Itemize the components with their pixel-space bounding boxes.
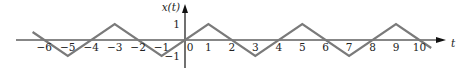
x-tick-label: 4 [275, 41, 282, 53]
plot-svg: −6−5−4−3−2−10123456789101−1x(t)t [0, 0, 466, 72]
x-tick-label: 2 [229, 41, 236, 53]
x-tick-label: 0 [187, 41, 194, 53]
x-tick-label: −2 [130, 41, 145, 53]
x-tick-label: 7 [346, 41, 353, 53]
y-tick-label: 1 [173, 18, 180, 30]
x-tick-label: 9 [393, 41, 400, 53]
x-tick-label: 1 [205, 41, 212, 53]
x-axis-label: t [451, 37, 456, 49]
tick-labels: −6−5−4−3−2−10123456789101−1x(t)t [37, 1, 456, 62]
triangle-wave-plot: −6−5−4−3−2−10123456789101−1x(t)t [0, 0, 466, 72]
x-tick-label: −3 [107, 41, 122, 53]
x-tick-label: −5 [60, 41, 75, 53]
x-tick-label: −4 [83, 41, 99, 53]
x-axis-arrow-icon [436, 37, 446, 43]
y-tick-label: −1 [165, 50, 180, 62]
x-tick-label: 5 [299, 41, 306, 53]
y-axis-label: x(t) [162, 1, 180, 13]
x-tick-label: 3 [252, 41, 259, 53]
x-tick-label: −6 [37, 41, 53, 53]
x-tick-label: 6 [322, 41, 329, 53]
x-tick-label: 8 [369, 41, 376, 53]
x-tick-label: 10 [413, 41, 426, 53]
axes [16, 4, 446, 68]
y-axis-arrow-icon [182, 4, 188, 13]
